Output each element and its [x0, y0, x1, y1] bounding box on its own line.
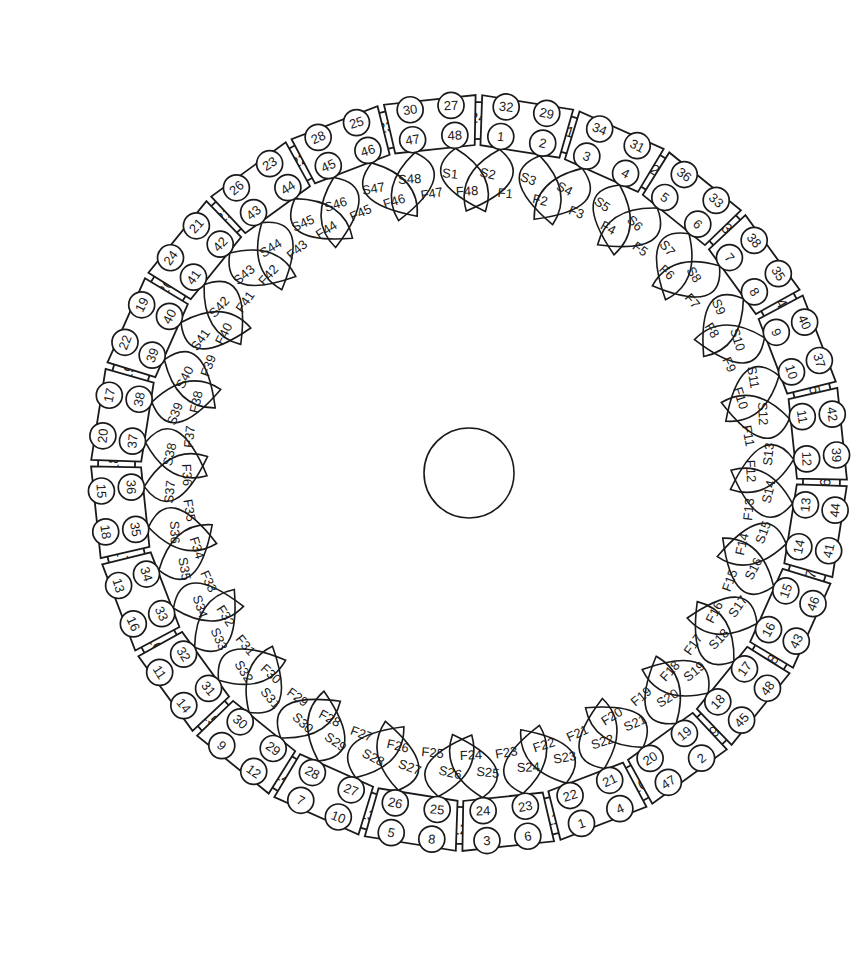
coil-outer-number: 42	[824, 406, 841, 423]
lead-label-start: S45	[289, 211, 316, 234]
lead-label-finish: F40	[212, 320, 236, 347]
lead-label-finish: F45	[347, 201, 374, 224]
lead-label-start: S15	[752, 519, 774, 546]
coil-outer-number: 8	[427, 831, 436, 847]
lead-label-finish: F25	[421, 744, 445, 761]
lead-label-finish: F47	[419, 184, 444, 203]
lead-label-finish: F12	[743, 460, 759, 483]
lead-label-start: S24	[516, 759, 540, 775]
lead-label-start: S43	[230, 261, 257, 287]
lead-label-start: S19	[680, 658, 707, 684]
lead-label-finish: F3	[567, 203, 586, 222]
lead-label-start: S1	[442, 165, 459, 181]
coil-groups: 1232293434315636337838359104037111242391…	[88, 92, 849, 853]
coil-outer-number: 44	[827, 502, 843, 518]
lead-label-start: S25	[476, 764, 500, 781]
lead-label-finish: F43	[284, 237, 311, 263]
coil-inner-number: 13	[797, 497, 813, 513]
coil-outer-number: 18	[97, 523, 114, 540]
lead-label-start: S14	[759, 479, 779, 505]
lead-label-start: S47	[361, 179, 386, 198]
coil-inner-number: 37	[124, 433, 140, 449]
lead-label-start: S32	[231, 658, 256, 686]
lead-label-start: S6	[624, 212, 646, 234]
lead-label-finish: F17	[680, 631, 705, 658]
lead-label-finish: F42	[255, 262, 281, 289]
lead-label-start: S40	[173, 364, 197, 391]
lead-label-finish: F11	[739, 424, 757, 448]
lead-label-start: S42	[206, 293, 233, 320]
coil-inner-number: 23	[517, 798, 534, 815]
lead-label-finish: F30	[258, 661, 285, 687]
lead-label-finish: F19	[628, 684, 655, 710]
lead-label-start: S20	[654, 686, 682, 711]
lead-label-start: S7	[657, 237, 679, 259]
coil-inner-number: 12	[799, 451, 815, 466]
lead-label-start: S48	[398, 171, 422, 187]
lead-label-start: S35	[175, 556, 194, 581]
lead-label-finish: F21	[564, 722, 591, 745]
coil-group: 252685	[365, 788, 458, 852]
coil-outer-number: 17	[100, 387, 118, 404]
lead-label-finish: F7	[682, 290, 703, 311]
diagram-canvas: 123456789101112131415161718192021222324 …	[0, 0, 859, 971]
lead-label-start: S18	[706, 625, 733, 652]
lead-label-finish: F18	[657, 658, 683, 685]
coil-outer-number: 39	[829, 447, 845, 462]
coil-outer-number: 41	[820, 542, 838, 559]
lead-label-finish: F27	[348, 723, 374, 745]
lead-label-start: S41	[187, 326, 213, 354]
lead-label-start: S44	[257, 235, 285, 260]
coil-inner-number: 36	[124, 480, 140, 495]
lead-label-start: S9	[709, 297, 729, 318]
lead-loops: S1F1S2F2S3F3S4F4S5F5S6F6S7F7S8F8S9F9S10F…	[144, 148, 793, 797]
coil-outer-number: 29	[538, 104, 555, 122]
lead-label-finish: F24	[459, 747, 482, 763]
lead-label-finish: F33	[197, 568, 220, 595]
coil-group: 232463	[462, 793, 554, 854]
lead-label-start: S29	[322, 729, 350, 755]
coil-outer-number: 30	[402, 101, 419, 118]
lead-label-finish: F29	[284, 684, 311, 709]
lead-label-start: S37	[161, 480, 178, 504]
coil-inner-number: 35	[127, 521, 144, 538]
lead-label-start: S23	[552, 748, 577, 767]
lead-label-start: S39	[164, 400, 186, 427]
lead-label-start: S28	[360, 745, 387, 769]
lead-label-finish: F37	[181, 425, 198, 449]
lead-label-start: S12	[755, 402, 771, 426]
lead-label-start: S30	[289, 710, 316, 737]
lead-label-start: S8	[683, 264, 704, 285]
lead-label-finish: F31	[233, 632, 259, 659]
lead-label-start: S17	[725, 593, 751, 621]
coil-outer-number: 27	[443, 98, 458, 114]
lead-label-start: S33	[207, 625, 230, 652]
coil-group: 123229	[480, 94, 573, 158]
coil-inner-number: 11	[794, 409, 811, 425]
lead-label-start: S13	[760, 442, 777, 466]
lead-label-start: S10	[727, 326, 748, 353]
lead-label-finish: F23	[494, 743, 519, 762]
lead-label-start: S2	[478, 165, 497, 183]
lead-label-start: S16	[741, 555, 765, 582]
lead-label-finish: F13	[740, 497, 757, 521]
lead-label-start: S46	[322, 194, 349, 215]
coil-group: 13144441	[784, 484, 848, 577]
coil-group: 11124239	[789, 388, 850, 480]
lead-label-finish: F41	[232, 288, 257, 315]
coil-group: 47483027	[384, 92, 476, 153]
lead-label-finish: F28	[316, 706, 343, 730]
coil-outer-number: 32	[498, 99, 514, 115]
coil-outer-number: 20	[95, 428, 111, 444]
lead-label-finish: F16	[702, 599, 726, 626]
lead-label-start: S22	[589, 731, 616, 752]
lead-label-finish: F5	[630, 238, 651, 259]
winding-diagram: 123456789101112131415161718192021222324 …	[0, 0, 859, 971]
lead-label-start: S11	[744, 365, 762, 389]
coil-outer-number: 3	[483, 833, 491, 848]
lead-label-finish: F35	[180, 498, 199, 523]
coil-group: 35361815	[88, 466, 149, 558]
coil-inner-number: 47	[404, 131, 421, 148]
lead-label-finish: F36	[179, 463, 195, 486]
lead-label-start: S27	[396, 756, 423, 778]
